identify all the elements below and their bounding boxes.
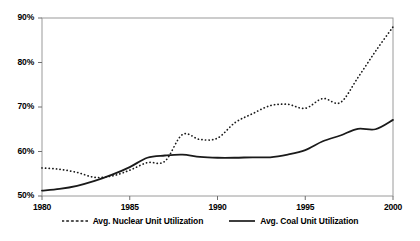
x-tick-label: 1980 [17,202,67,212]
legend-item-coal[interactable]: Avg. Coal Unit Utilization [229,216,358,226]
plot-frame [42,18,393,196]
legend-label-coal: Avg. Coal Unit Utilization [260,216,358,226]
x-axis-ticks [42,196,393,200]
chart-legend: Avg. Nuclear Unit Utilization Avg. Coal … [0,216,420,226]
x-tick-label: 1985 [105,202,155,212]
legend-swatch-solid-icon [229,217,255,225]
legend-label-nuclear: Avg. Nuclear Unit Utilization [93,216,204,226]
y-tick-label: 80% [0,57,34,67]
x-tick-label: 2000 [368,202,418,212]
chart-container: 50%60%70%80%90% 19801985199019952000 Avg… [0,0,420,241]
y-tick-label: 50% [0,190,34,200]
legend-item-nuclear[interactable]: Avg. Nuclear Unit Utilization [62,216,204,226]
legend-swatch-dotted-icon [62,217,88,225]
plot-area-border [42,18,393,196]
y-tick-label: 90% [0,12,34,22]
y-tick-label: 70% [0,101,34,111]
x-tick-label: 1995 [280,202,330,212]
y-axis-ticks [38,18,42,196]
y-tick-label: 60% [0,146,34,156]
x-tick-label: 1990 [193,202,243,212]
